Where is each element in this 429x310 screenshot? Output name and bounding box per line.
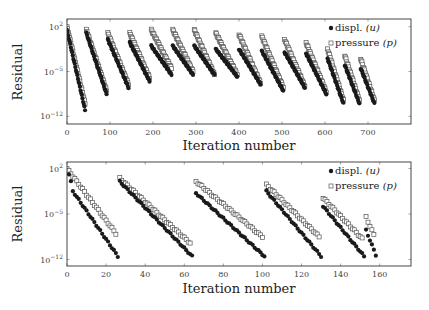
displacement-point (78, 85, 82, 89)
pressure-point (370, 228, 374, 232)
displacement-point (258, 83, 262, 87)
displacement-point (66, 30, 70, 34)
y-tick-label: 10−12 (40, 110, 63, 122)
displacement-point (324, 92, 328, 96)
displacement-point (169, 73, 173, 77)
y-tick-label: 10−5 (44, 65, 63, 77)
displacement-point (116, 255, 120, 259)
displacement-point (281, 88, 285, 92)
displacement-point (370, 242, 374, 246)
y-tick-label: 102 (49, 162, 63, 174)
displacement-point (262, 254, 266, 258)
displacement-point (325, 208, 329, 212)
top-xlabel: Iteration number (182, 138, 296, 153)
x-tick-label: 100 (102, 128, 117, 137)
displacement-point (71, 53, 75, 57)
displacement-point (83, 108, 87, 112)
y-tick-label: 10−5 (44, 208, 63, 220)
displacement-point (73, 65, 77, 69)
pressure-point (188, 241, 192, 245)
pressure-point (260, 235, 264, 239)
x-tick-label: 20 (101, 270, 111, 279)
displacement-point (190, 253, 194, 257)
x-tick-label: 0 (64, 270, 69, 279)
displacement-point (73, 61, 77, 65)
displacement-point (114, 251, 118, 255)
legend-label: pressure (p) (335, 37, 397, 48)
x-tick-label: 600 (317, 128, 332, 137)
displacement-point (69, 179, 73, 183)
displacement-point (80, 96, 84, 100)
displacement-point (84, 208, 88, 212)
x-tick-label: 80 (218, 270, 228, 279)
displacement-point (147, 80, 151, 84)
x-tick-label: 40 (140, 270, 150, 279)
pressure-point (366, 220, 370, 224)
legend-pressure-marker-icon (329, 41, 333, 45)
displacement-point (235, 75, 239, 79)
x-tick-label: 700 (360, 128, 375, 137)
bottom-ylabel: Residual (10, 186, 25, 243)
y-tick-label: 102 (49, 20, 63, 32)
legend-label: displ. (u) (335, 22, 380, 33)
x-tick-label: 140 (333, 270, 348, 279)
displacement-point (366, 234, 370, 238)
displacement-point (126, 86, 130, 90)
top-plot-data (65, 25, 377, 113)
x-tick-label: 160 (372, 270, 387, 279)
x-tick-label: 100 (255, 270, 270, 279)
displacement-point (364, 228, 368, 232)
x-tick-label: 0 (64, 128, 69, 137)
displacement-point (357, 101, 361, 105)
displacement-point (372, 248, 376, 252)
displacement-point (77, 197, 81, 201)
displacement-point (374, 254, 378, 258)
x-tick-label: 200 (145, 128, 160, 137)
displacement-point (75, 73, 79, 77)
displacement-point (319, 255, 323, 259)
bottom-legend: displ. (u)pressure (p) (329, 165, 397, 191)
displacement-point (372, 101, 376, 105)
displacement-point (68, 41, 72, 45)
displacement-point (346, 235, 350, 239)
displacement-point (341, 101, 345, 105)
displacement-point (71, 189, 75, 193)
bottom-plot-data (65, 167, 378, 260)
figure: Residual Iteration number 01002003004005… (0, 0, 429, 310)
y-tick-label: 10−12 (40, 253, 63, 265)
displacement-point (67, 172, 71, 176)
pressure-series (65, 167, 376, 246)
pressure-point (364, 215, 368, 219)
x-tick-label: 300 (188, 128, 203, 137)
pressure-point (372, 232, 376, 236)
displacement-point (362, 254, 366, 258)
displacement-point (92, 220, 96, 224)
displacement-point (80, 93, 84, 97)
x-tick-label: 120 (294, 270, 309, 279)
pressure-point (114, 232, 118, 236)
displacement-point (106, 239, 110, 243)
displacement-point (82, 104, 86, 108)
legend-label: pressure (p) (335, 180, 397, 191)
pressure-point (360, 236, 364, 240)
pressure-point (317, 235, 321, 239)
legend-pressure-marker-icon (329, 184, 333, 188)
legend-displacement-marker-icon (329, 169, 333, 173)
x-tick-label: 60 (179, 270, 189, 279)
pressure-point (75, 179, 79, 183)
legend-label: displ. (u) (335, 165, 380, 176)
bottom-chart: Residual Iteration number 02040608010012… (10, 162, 411, 296)
x-tick-label: 500 (274, 128, 289, 137)
displacement-point (368, 239, 372, 243)
displacement-point (303, 86, 307, 90)
displacement-point (212, 73, 216, 77)
bottom-xlabel: Iteration number (182, 281, 296, 296)
displacement-point (104, 92, 108, 96)
legend-displacement-marker-icon (329, 26, 333, 30)
top-ylabel: Residual (10, 44, 25, 101)
top-chart: Residual Iteration number 01002003004005… (10, 19, 411, 153)
displacement-point (191, 73, 195, 77)
displacement-point (98, 228, 102, 232)
x-tick-label: 400 (231, 128, 246, 137)
top-legend: displ. (u)pressure (p) (329, 22, 397, 48)
